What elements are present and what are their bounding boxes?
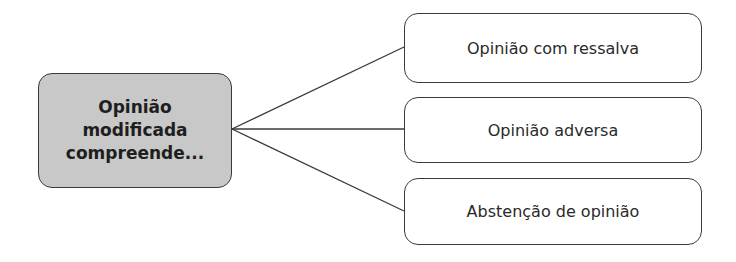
root-line-2: modificada	[66, 119, 204, 142]
node-label: Opinião adversa	[488, 121, 618, 140]
node-label: Abstenção de opinião	[467, 202, 640, 221]
diagram-canvas: Opinião modificada compreende... Opinião…	[0, 0, 736, 262]
connector-to-opiniao-com-ressalva	[232, 47, 404, 129]
node-label: Opinião com ressalva	[467, 39, 639, 58]
node-abstencao-de-opiniao: Abstenção de opinião	[404, 178, 702, 245]
root-node: Opinião modificada compreende...	[38, 73, 232, 188]
node-opiniao-com-ressalva: Opinião com ressalva	[404, 13, 702, 83]
connector-to-abstencao-de-opiniao	[232, 129, 404, 211]
node-opiniao-adversa: Opinião adversa	[404, 97, 702, 163]
root-line-3: compreende...	[66, 142, 204, 165]
root-line-1: Opinião	[66, 96, 204, 119]
